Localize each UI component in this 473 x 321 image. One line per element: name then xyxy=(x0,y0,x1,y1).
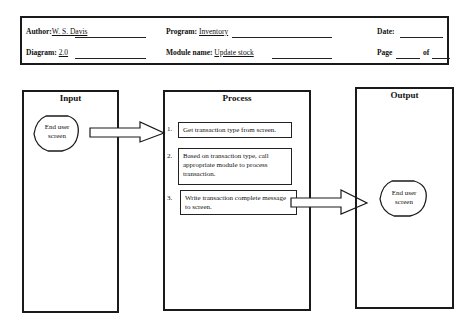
date-underline xyxy=(400,37,443,38)
of-underline xyxy=(432,58,450,59)
step-1-box: Get transaction type from screen. xyxy=(178,122,292,138)
step-2-box: Based on transaction type, call appropri… xyxy=(178,148,292,185)
diagram-field: Diagram: 2.0 xyxy=(26,48,68,57)
module-label: Module name: xyxy=(166,48,212,57)
diagram-underline xyxy=(75,58,146,59)
program-field: Program: Inventory xyxy=(166,27,228,36)
author-value: W. S. Davis xyxy=(52,27,88,36)
step-3-number: 3. xyxy=(167,194,172,202)
page-underline xyxy=(396,58,420,59)
process-title: Process xyxy=(165,93,309,103)
diagram-value: 2.0 xyxy=(59,48,68,57)
program-underline xyxy=(232,37,332,38)
header-block: Author:W. S. Davis Program: Inventory Da… xyxy=(20,16,449,65)
step-2-number: 2. xyxy=(167,152,172,160)
module-field: Module name: Update stock xyxy=(166,48,254,57)
module-value: Update stock xyxy=(214,48,253,57)
date-label: Date: xyxy=(377,27,395,36)
output-title: Output xyxy=(357,90,452,100)
step-3-box: Write transaction complete message to sc… xyxy=(180,190,297,215)
step-1-number: 1. xyxy=(167,125,172,133)
input-terminal-label: End user screen xyxy=(32,123,82,141)
author-field: Author:W. S. Davis xyxy=(26,27,87,36)
date-field: Date: xyxy=(377,27,395,36)
program-label: Program: xyxy=(166,27,197,36)
module-underline xyxy=(272,58,332,59)
author-label: Author: xyxy=(26,27,52,36)
page-field: Page xyxy=(377,48,392,57)
input-title: Input xyxy=(24,93,117,103)
program-value: Inventory xyxy=(199,27,228,36)
diagram-label: Diagram: xyxy=(26,48,57,57)
arrow-input-to-process-icon xyxy=(88,120,166,146)
output-terminal-label: End user screen xyxy=(378,189,430,207)
page-label: Page xyxy=(377,48,392,57)
of-label: of xyxy=(423,48,429,57)
author-underline xyxy=(75,37,146,38)
